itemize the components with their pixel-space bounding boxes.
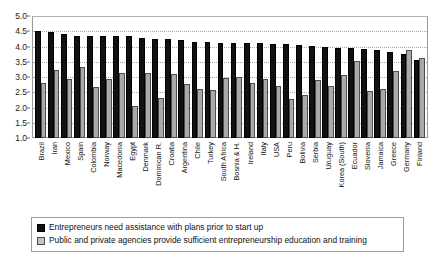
bar-group [282,16,295,138]
bar [223,78,229,138]
x-axis-label-cell: Ecuador [348,140,361,212]
x-axis-tick-label: Ecuador [351,142,358,169]
y-axis-tick-label: 1.5 [15,119,27,128]
bar-group [400,16,413,138]
y-axis-tick-label: 4.5 [15,27,27,36]
y-axis-tick-mark [27,31,30,32]
y-axis-tick-label: 1.0 [15,134,27,143]
x-axis-tick-label: Mexico [64,142,71,165]
x-axis-label-cell: Korea (South) [334,140,347,212]
y-axis-tick-mark [27,46,30,47]
bar-group [413,16,426,138]
bar [145,73,151,138]
bar [302,95,308,138]
bar-group [139,16,152,138]
bar [184,84,190,138]
bar [132,106,138,138]
bar-group [308,16,321,138]
y-axis-tick-label: 4.0 [15,42,27,51]
x-axis-label-cell: Colombia [86,140,99,212]
bar-group [99,16,112,138]
legend-label: Entrepreneurs need assistance with plans… [49,223,263,231]
bar [419,58,425,138]
x-axis-label-cell: Bolivia [295,140,308,212]
x-axis-label-cell: Peru [282,140,295,212]
bar [171,74,177,138]
bar [67,79,73,138]
x-axis-tick-label: Macedonia [116,142,123,178]
x-axis-label-cell: Germany [400,140,413,212]
x-axis-tick-label: Chile [194,142,201,159]
x-axis-tick-label: Peru [286,142,293,157]
bar-group [152,16,165,138]
y-axis-tick-label: 3.0 [15,73,27,82]
bar [41,83,47,139]
x-axis-tick-label: Dominican R. [155,142,162,186]
y-axis-tick-mark [27,92,30,93]
legend-item: Public and private agencies provide suff… [37,234,398,247]
bar [380,89,386,138]
legend-swatch-dark [37,224,45,232]
x-axis-label-cell: Croatia [165,140,178,212]
bar [210,90,216,138]
bar-group [178,16,191,138]
bar-group [47,16,60,138]
x-axis-tick-label: Colombia [90,142,97,173]
bar [393,71,399,138]
x-axis-label-cell: Slovenia [361,140,374,212]
x-axis-label-cell: Jamaica [374,140,387,212]
y-axis-tick-mark [27,77,30,78]
x-axis-tick-label: Bolivia [299,142,306,164]
y-axis-tick-label: 2.0 [15,103,27,112]
bar-group [191,16,204,138]
y-axis-tick-label: 5.0 [15,12,27,21]
x-axis-label-cell: Greece [387,140,400,212]
x-axis-label-cell: Serbia [308,140,321,212]
x-axis-label-cell: Denmark [139,140,152,212]
bar-group [269,16,282,138]
bar [54,70,60,138]
y-axis-tick-label: 3.5 [15,58,27,67]
bar [119,73,125,138]
y-axis-tick-mark [27,107,30,108]
x-axis-tick-label: Serbia [312,142,319,163]
y-axis-tick-mark [27,16,30,17]
x-axis-tick-label: Spain [77,142,84,161]
x-axis-label-cell: Egypt [125,140,138,212]
bar [276,86,282,138]
x-axis-label-cell: Dominican R. [152,140,165,212]
bar-group [321,16,334,138]
x-axis-tick-label: Bosnia & H. [233,142,240,181]
x-axis-tick-label: Argentina [181,142,188,173]
bar [106,79,112,138]
bar [93,87,99,138]
x-axis-tick-label: Korea (South) [338,142,345,187]
x-axis-label-cell: Macedonia [112,140,125,212]
bar-group [112,16,125,138]
bar-group [387,16,400,138]
bar [289,99,295,138]
x-axis-label-cell: Finland [413,140,426,212]
x-axis-tick-label: Slovenia [364,142,371,170]
legend-label: Public and private agencies provide suff… [49,236,367,244]
bar [197,89,203,138]
x-axis-label-cell: Argentina [178,140,191,212]
x-axis-label-cell: Norway [99,140,112,212]
bar [354,61,360,138]
bar-group [348,16,361,138]
bar-group [165,16,178,138]
bar [328,86,334,138]
y-axis: 1.01.52.02.53.03.54.04.55.0 [0,16,30,138]
y-axis-tick-mark [27,138,30,139]
bar-group [230,16,243,138]
x-axis-label-cell: Mexico [60,140,73,212]
bar [367,91,373,138]
bar [406,50,412,138]
x-axis-label-cell: Chile [191,140,204,212]
bar [315,80,321,138]
bar-group [60,16,73,138]
x-axis-tick-label: Egypt [129,142,136,161]
bar-group [34,16,47,138]
y-axis-tick-mark [27,122,30,123]
bar-group [217,16,230,138]
